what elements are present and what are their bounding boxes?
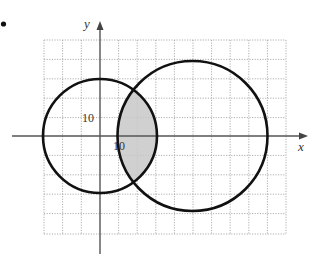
x-tick-label: 10 bbox=[113, 139, 125, 153]
axes bbox=[12, 21, 308, 254]
y-tick-label: 10 bbox=[82, 111, 94, 125]
x-axis-label: x bbox=[297, 139, 304, 154]
y-axis-arrow-icon bbox=[97, 21, 104, 30]
venn-coordinate-figure: y x 10 10 bbox=[0, 0, 315, 262]
y-axis-label: y bbox=[82, 16, 90, 31]
bullet-marker bbox=[1, 21, 6, 26]
